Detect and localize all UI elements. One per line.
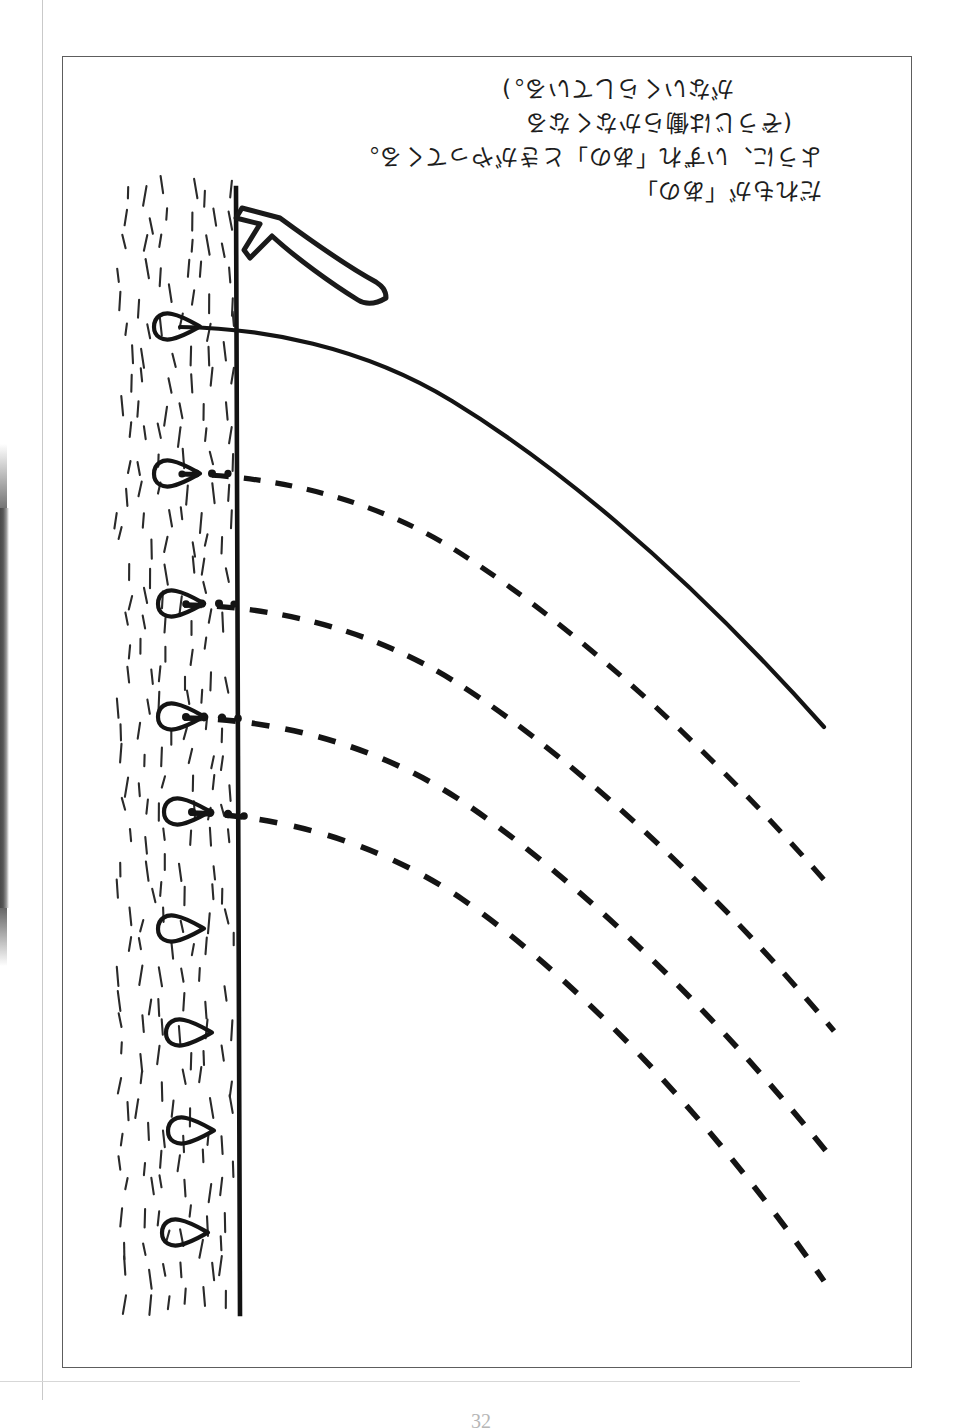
hatch-tick (129, 645, 130, 658)
hatch-tick (157, 1046, 159, 1064)
hatch-tick (132, 345, 133, 363)
hatch-tick (229, 212, 233, 230)
hatch-tick (168, 1296, 170, 1309)
hatch-tick (149, 1000, 151, 1015)
hatch-tick (149, 1270, 152, 1289)
hatch-tick (139, 966, 142, 985)
hatch-tick (144, 1163, 145, 1175)
hatch-tick (183, 1070, 186, 1084)
hatch-tick (233, 454, 234, 471)
hatch-tick (158, 424, 161, 438)
hatch-tick (117, 699, 119, 718)
caption-line-3: (ぞうじは働らかなくなる (330, 106, 792, 140)
hatch-tick (152, 889, 155, 902)
hatch-tick (209, 1184, 212, 1202)
hatch-tick (180, 403, 183, 418)
hatch-tick (169, 284, 172, 302)
hatch-tick (160, 882, 161, 896)
hatch-tick (205, 638, 207, 649)
caption-line-1: だれもが「あの」 (330, 174, 822, 208)
hatch-tick (163, 1131, 165, 1148)
hatch-tick (139, 783, 140, 796)
hatch-tick (143, 1244, 145, 1255)
hatch-tick (191, 347, 192, 366)
hatch-tick (125, 324, 127, 335)
hatch-tick (206, 235, 209, 254)
hatch-tick (164, 537, 167, 552)
hatch-tick (228, 485, 229, 501)
hatch-tick (225, 986, 227, 1001)
hatch-tick (229, 785, 230, 801)
hatch-tick (138, 723, 140, 739)
hatch-tick (118, 991, 121, 1011)
hatch-tick (203, 1150, 204, 1163)
footer-rule (0, 1381, 800, 1382)
hatch-tick (166, 208, 167, 220)
hatch-tick (160, 1151, 161, 1168)
hatch-tick (233, 312, 234, 326)
hatch-tick (230, 1095, 233, 1113)
hatch-tick (144, 588, 147, 603)
hatch-tick (222, 244, 225, 258)
hatch-tick (160, 1175, 162, 1187)
hatch-tick (130, 908, 132, 926)
hatch-tick (184, 728, 187, 740)
hatch-tick (130, 422, 132, 437)
hatch-tick (204, 191, 205, 207)
hatch-tick (162, 776, 165, 787)
hatch-tick (125, 778, 128, 797)
hatch-tick (192, 944, 194, 955)
hatch-tick (211, 756, 214, 768)
hatch-tick (181, 921, 184, 932)
hatch-tick (191, 650, 193, 665)
hatch-tick (142, 1015, 143, 1032)
hatch-tick (212, 483, 214, 503)
hatch-tick (140, 920, 143, 931)
curve-2 (180, 474, 832, 889)
hatch-tick (139, 938, 141, 949)
hatch-tick (125, 613, 127, 625)
hatch-tick (211, 368, 213, 386)
page-margin-rule (42, 0, 43, 1400)
hatch-tick (137, 401, 138, 417)
hatch-tick (158, 999, 159, 1016)
hatch-tick (180, 1263, 181, 1278)
hatch-tick (160, 317, 162, 335)
hatch-tick (161, 176, 164, 193)
hatch-tick (128, 461, 131, 473)
hatch-tick (187, 691, 189, 704)
hatch-tick (205, 1002, 206, 1018)
hatch-tick (191, 1053, 192, 1070)
hatch-tick (166, 1231, 169, 1242)
hatch-tick (124, 1256, 125, 1274)
hatch-tick (117, 269, 119, 282)
hatch-tick (117, 967, 119, 986)
hatch-tick (178, 1155, 180, 1171)
hatch-tick (159, 967, 162, 986)
hatch-tick (192, 290, 194, 305)
hatch-tick (210, 452, 213, 464)
vertical-axis (236, 188, 240, 1314)
hatch-tick (226, 568, 229, 582)
hatch-tick (159, 235, 161, 247)
hatch-tick (145, 837, 147, 854)
hatch-tick (181, 507, 182, 519)
scanner-edge-shadow (0, 508, 9, 908)
hatch-tick (126, 489, 127, 506)
hatch-tick (210, 828, 211, 846)
hatch-tick (150, 218, 153, 233)
hatch-tick (143, 513, 144, 527)
hatch-tick (120, 744, 121, 763)
hatch-tick (203, 582, 206, 593)
hatch-tick (147, 324, 150, 338)
hatch-tick (213, 209, 216, 226)
hatch-tick (162, 1019, 163, 1034)
hand-drawn-arrow (236, 208, 386, 303)
hatch-tick (221, 1236, 222, 1250)
hatch-tick (169, 378, 172, 393)
caption-line-2: ように、いずれ「あの」ときがやってくる。 (330, 140, 822, 174)
hatch-tick (169, 510, 172, 527)
hatch-tick (118, 1078, 121, 1093)
hatch-tick (188, 260, 189, 277)
hatch-tick (205, 534, 208, 546)
